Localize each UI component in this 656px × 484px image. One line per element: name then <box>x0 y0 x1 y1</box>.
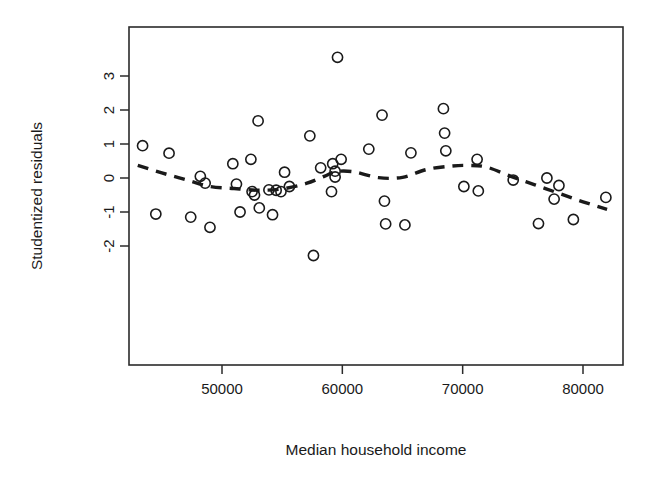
data-point <box>440 128 450 138</box>
data-point <box>472 154 482 164</box>
data-point <box>568 214 578 224</box>
data-point <box>267 210 277 220</box>
x-tick-label: 70000 <box>442 380 484 397</box>
data-point <box>137 141 147 151</box>
data-point <box>377 110 387 120</box>
x-axis-ticks <box>222 365 583 374</box>
data-point <box>246 154 256 164</box>
x-tick-label: 50000 <box>201 380 243 397</box>
data-point <box>336 154 346 164</box>
y-tick-label: -2 <box>100 239 117 252</box>
y-tick-label: 2 <box>100 106 117 114</box>
data-point <box>473 186 483 196</box>
data-point <box>400 220 410 230</box>
y-tick-label: -1 <box>100 205 117 218</box>
chart-container: Studentized residuals Median household i… <box>0 0 656 484</box>
data-point <box>601 192 611 202</box>
y-tick-label: 3 <box>100 72 117 80</box>
data-point <box>254 203 264 213</box>
data-point <box>406 148 416 158</box>
data-point <box>316 163 326 173</box>
data-point <box>438 104 448 114</box>
x-tick-label: 60000 <box>321 380 363 397</box>
data-point <box>228 159 238 169</box>
data-point <box>554 180 564 190</box>
y-tick-label: 0 <box>100 174 117 182</box>
data-point <box>332 52 342 62</box>
y-axis-title: Studentized residuals <box>28 122 45 270</box>
data-points <box>137 52 610 260</box>
data-point <box>151 209 161 219</box>
data-point <box>253 116 263 126</box>
data-point <box>441 146 451 156</box>
data-point <box>549 194 559 204</box>
data-point <box>235 207 245 217</box>
data-point <box>305 131 315 141</box>
data-point <box>459 181 469 191</box>
data-point <box>308 250 318 260</box>
data-point <box>186 212 196 222</box>
y-axis-tick-labels: -2-10123 <box>100 72 117 253</box>
x-tick-label: 80000 <box>562 380 604 397</box>
y-tick-label: 1 <box>100 140 117 148</box>
data-point <box>205 222 215 232</box>
y-axis-ticks <box>120 76 129 246</box>
data-point <box>279 167 289 177</box>
x-axis-title: Median household income <box>286 441 467 458</box>
data-point <box>381 219 391 229</box>
data-point <box>364 144 374 154</box>
data-point <box>379 196 389 206</box>
data-point <box>326 187 336 197</box>
data-point <box>164 148 174 158</box>
data-point <box>533 218 543 228</box>
data-point <box>542 173 552 183</box>
residual-scatter-plot: Studentized residuals Median household i… <box>0 0 656 484</box>
plot-frame <box>129 27 623 365</box>
x-axis-tick-labels: 50000600007000080000 <box>201 380 604 397</box>
